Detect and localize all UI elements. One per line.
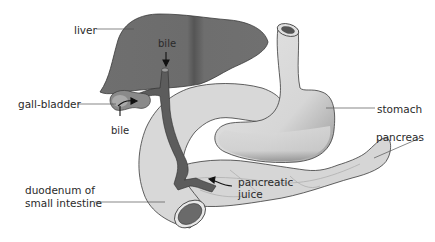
label-liver: liver bbox=[74, 24, 97, 36]
label-gall-bladder: gall-bladder bbox=[18, 98, 81, 110]
label-bile-top: bile bbox=[158, 38, 176, 50]
liver-shape bbox=[100, 14, 268, 94]
label-duodenum-line2: small intestine bbox=[25, 197, 102, 209]
label-bile-left: bile bbox=[111, 125, 129, 137]
label-pancreas: pancreas bbox=[376, 131, 424, 143]
label-stomach: stomach bbox=[377, 103, 422, 115]
label-pancreatic-line2: juice bbox=[238, 188, 263, 200]
label-pancreatic-line1: pancreatic bbox=[238, 176, 293, 188]
label-duodenum-line1: duodenum of bbox=[25, 184, 95, 196]
